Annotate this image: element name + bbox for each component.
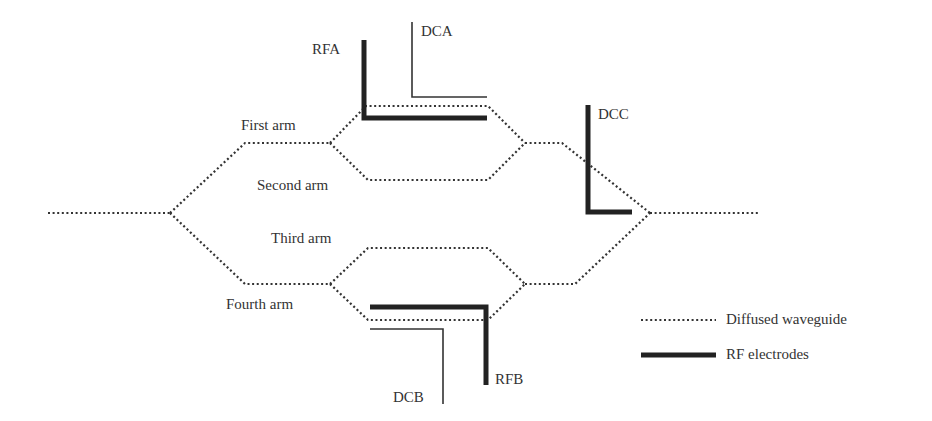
rfb-electrode bbox=[370, 307, 486, 385]
lower-combiner-waveguide bbox=[525, 213, 650, 284]
second-arm-waveguide bbox=[330, 143, 525, 180]
label-third-arm: Third arm bbox=[271, 231, 331, 246]
label-fourth-arm: Fourth arm bbox=[226, 297, 293, 312]
label-dcb: DCB bbox=[393, 390, 424, 405]
label-second-arm: Second arm bbox=[257, 178, 328, 193]
label-rfb: RFB bbox=[495, 372, 523, 387]
label-first-arm: First arm bbox=[241, 118, 296, 133]
fourth-arm-waveguide bbox=[330, 284, 525, 320]
legend-rf-label: RF electrodes bbox=[726, 347, 809, 362]
diffused-waveguide bbox=[48, 106, 760, 320]
label-dca: DCA bbox=[421, 24, 453, 39]
third-arm-waveguide bbox=[330, 248, 525, 284]
label-rfa: RFA bbox=[312, 42, 340, 57]
lower-branch-waveguide bbox=[170, 213, 330, 284]
label-dcc: DCC bbox=[598, 107, 629, 122]
first-arm-waveguide bbox=[330, 106, 525, 143]
legend-waveguide-label: Diffused waveguide bbox=[726, 312, 847, 327]
